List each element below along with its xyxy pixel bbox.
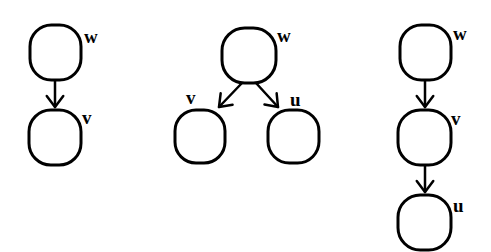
edge-w-to-v — [47, 80, 64, 107]
node-v: v — [29, 107, 92, 165]
node-label: w — [453, 23, 467, 44]
node-shape — [29, 110, 81, 165]
node-label: w — [277, 25, 291, 46]
node-shape — [222, 28, 276, 83]
node-shape — [30, 25, 81, 80]
diagram-canvas: wvwvuwvu — [0, 0, 491, 252]
node-label: v — [186, 87, 196, 108]
node-shape — [398, 110, 451, 165]
graph-3: wvu — [398, 23, 467, 250]
node-w: w — [30, 25, 98, 80]
node-w: w — [400, 23, 467, 80]
node-label: u — [453, 195, 464, 216]
graphs: wvwvuwvu — [29, 23, 467, 250]
edge-w-to-v — [417, 80, 434, 107]
node-v: v — [175, 87, 225, 163]
graph-1: wv — [29, 25, 98, 165]
edge-w-to-v — [219, 83, 242, 107]
node-label: w — [84, 26, 98, 47]
node-shape — [400, 25, 451, 80]
node-v: v — [398, 108, 461, 165]
node-label: v — [451, 108, 461, 129]
node-label: u — [290, 89, 301, 110]
node-u: u — [268, 89, 319, 163]
node-u: u — [398, 195, 464, 250]
edge-v-to-u — [417, 165, 434, 192]
node-label: v — [82, 107, 92, 128]
node-w: w — [222, 25, 291, 83]
node-shape — [398, 195, 451, 250]
node-shape — [268, 110, 319, 163]
graph-2: wvu — [175, 25, 319, 163]
edge-w-to-u — [256, 83, 278, 107]
node-shape — [175, 110, 225, 163]
